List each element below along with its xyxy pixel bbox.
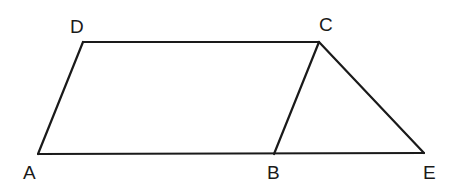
diagram-svg: D C A B E	[0, 0, 459, 187]
geometry-diagram: D C A B E	[0, 0, 459, 187]
segment-ce	[319, 42, 424, 153]
label-point-b: B	[267, 162, 280, 183]
label-point-c: C	[319, 14, 333, 35]
label-point-e: E	[423, 162, 436, 183]
label-point-a: A	[23, 162, 36, 183]
label-point-d: D	[70, 16, 84, 37]
segment-ae	[38, 153, 424, 154]
segment-ad	[38, 42, 83, 154]
segment-cb	[274, 42, 319, 154]
